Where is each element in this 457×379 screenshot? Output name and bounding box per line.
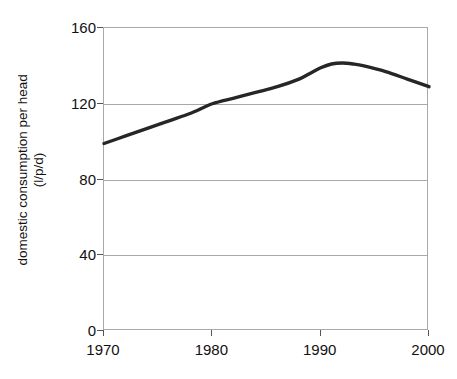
series-line-domestic-consumption	[104, 28, 429, 331]
y-axis-title-line1: domestic consumption per head	[15, 74, 31, 265]
y-tick-label-120: 120	[36, 94, 96, 111]
x-tick-label-1970: 1970	[63, 341, 143, 358]
y-tick-label-0: 0	[36, 322, 96, 339]
plot-area	[103, 27, 428, 330]
x-tick-label-1980: 1980	[171, 341, 251, 358]
series-path	[104, 63, 429, 143]
x-tick-label-1990: 1990	[280, 341, 360, 358]
y-tick-label-80: 80	[36, 170, 96, 187]
y-tick-label-160: 160	[36, 19, 96, 36]
x-tick-label-2000: 2000	[388, 341, 457, 358]
chart-container: domestic consumption per head (l/p/d) 16…	[0, 0, 457, 379]
y-tick-label-40: 40	[36, 246, 96, 263]
